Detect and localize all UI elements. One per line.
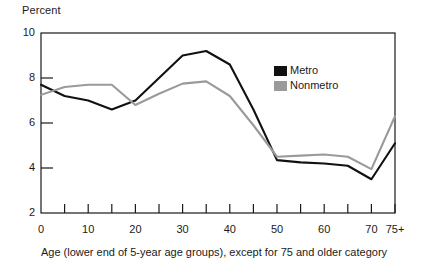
- x-axis-caption: Age (lower end of 5-year age groups), ex…: [0, 246, 428, 258]
- y-tick-label: 6: [15, 116, 35, 128]
- x-tick-label: 40: [224, 223, 236, 235]
- x-tick-label: 0: [38, 223, 44, 235]
- y-tick-label: 2: [15, 206, 35, 218]
- line-chart-plot: [0, 0, 428, 272]
- x-tick-label: 60: [318, 223, 330, 235]
- x-tick-label: 75+: [386, 223, 405, 235]
- y-tick-label: 4: [15, 161, 35, 173]
- y-tick-label: 10: [15, 26, 35, 38]
- series-line-metro: [41, 51, 395, 179]
- legend-label-nonmetro: Nonmetro: [290, 80, 338, 91]
- chart-legend: Metro Nonmetro: [274, 63, 338, 93]
- legend-swatch-metro: [274, 66, 287, 76]
- series-line-nonmetro: [41, 81, 395, 169]
- x-tick-label: 20: [129, 223, 141, 235]
- legend-label-metro: Metro: [290, 65, 318, 76]
- legend-item-nonmetro: Nonmetro: [274, 78, 338, 93]
- chart-figure: Percent Metro Nonmetro Age (lower end of…: [0, 0, 428, 272]
- legend-item-metro: Metro: [274, 63, 338, 78]
- x-tick-label: 10: [82, 223, 94, 235]
- y-axis-title: Percent: [22, 4, 61, 16]
- plot-frame: [41, 33, 395, 213]
- x-tick-label: 50: [271, 223, 283, 235]
- legend-swatch-nonmetro: [274, 81, 287, 91]
- x-tick-label: 70: [365, 223, 377, 235]
- y-tick-label: 8: [15, 71, 35, 83]
- x-tick-label: 30: [176, 223, 188, 235]
